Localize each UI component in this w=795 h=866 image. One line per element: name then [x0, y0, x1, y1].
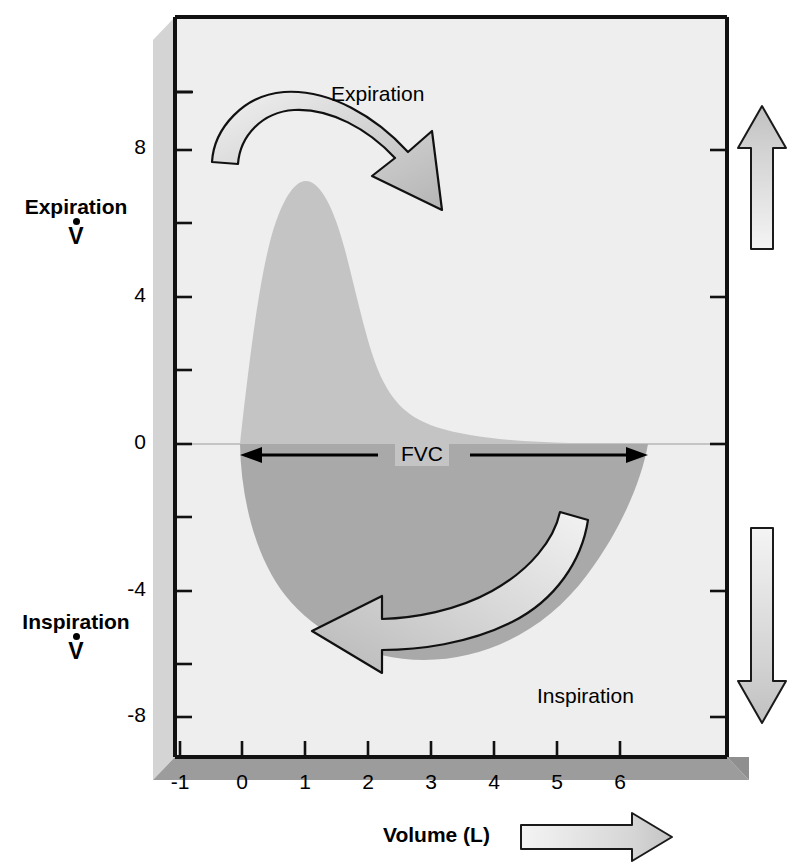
expiration-axis-label-group: Expiration V — [0, 196, 152, 246]
y-tick-label-0: 0 — [110, 430, 146, 454]
inspiration-axis-label: Inspiration — [22, 610, 129, 633]
expiration-axis-label: Expiration — [25, 195, 128, 218]
x-tick-label-1: 1 — [285, 770, 325, 794]
y-tick-label-4: 4 — [110, 283, 146, 307]
volume-axis-label: Volume (L) — [383, 824, 490, 846]
x-tick-label-6: 6 — [600, 770, 640, 794]
v-dot-symbol-inspiration: V — [0, 633, 152, 661]
v-dot-symbol-expiration: V — [0, 218, 152, 246]
x-tick-label-4: 4 — [474, 770, 514, 794]
inspiration-axis-label-group: Inspiration V — [0, 611, 152, 661]
volume-direction-arrow — [521, 813, 672, 861]
x-tick-label-5: 5 — [537, 770, 577, 794]
x-tick-label-neg1: -1 — [160, 770, 200, 794]
y-tick-label-8: 8 — [110, 135, 146, 159]
x-tick-label-2: 2 — [348, 770, 388, 794]
x-tick-label-0: 0 — [222, 770, 262, 794]
y-tick-label-neg4: -4 — [104, 577, 146, 601]
expiration-arrow-label: Expiration — [331, 82, 424, 106]
fvc-label: FVC — [395, 442, 449, 466]
flow-rate-down-arrow — [738, 528, 786, 723]
flow-rate-up-arrow — [738, 106, 786, 249]
y-tick-label-neg8: -8 — [104, 703, 146, 727]
x-tick-label-3: 3 — [411, 770, 451, 794]
inspiration-arrow-label: Inspiration — [537, 684, 634, 708]
